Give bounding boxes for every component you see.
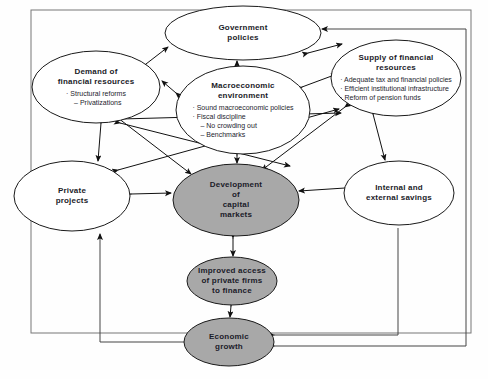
node-ellipse-economic-growth[interactable] [184, 318, 274, 366]
edge-demand-government [146, 47, 168, 64]
edge-demand-private [98, 123, 101, 161]
diagram-graphics [0, 0, 488, 379]
node-ellipse-supply-of-financial-resources[interactable] [331, 40, 461, 116]
edge-macro-demand [162, 81, 176, 93]
node-ellipse-development-of-capital-markets[interactable] [173, 164, 299, 236]
edge-supply-savings [373, 114, 385, 160]
edge-growth-private-feedback [100, 234, 184, 342]
node-ellipse-demand-of-financial-resources[interactable] [32, 51, 160, 123]
edge-savings-development [299, 188, 345, 191]
node-ellipse-private-projects[interactable] [14, 161, 130, 231]
node-ellipse-improved-access-of-private-firms-to-finance[interactable] [187, 257, 277, 305]
node-ellipse-government-policies[interactable] [165, 6, 321, 60]
node-ellipse-macroeconomic-environment[interactable] [176, 66, 310, 154]
node-ellipse-internal-and-external-savings[interactable] [344, 161, 454, 225]
edge-improved-growth [230, 306, 231, 317]
edge-growth-savings-feedback [274, 228, 398, 335]
edge-private-development [131, 193, 171, 194]
diagram-canvas: GovernmentpoliciesDemand offinancial res… [0, 0, 488, 379]
